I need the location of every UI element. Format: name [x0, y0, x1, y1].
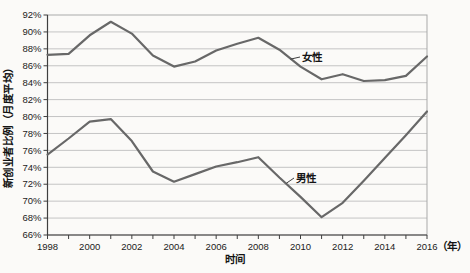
y-tick-labels: 66%68%70%72%74%76%78%80%82%84%86%88%90%9… [22, 9, 42, 240]
series-label-female: 女性 [302, 51, 323, 63]
y-tick-label: 76% [22, 145, 42, 156]
series-lines [48, 22, 428, 217]
x-axis-title: 时间 [225, 253, 245, 265]
y-tick-label: 78% [22, 128, 42, 139]
y-tick-label: 86% [22, 60, 42, 71]
y-tick-label: 80% [22, 111, 42, 122]
x-tick-label: 1998 [37, 241, 58, 252]
female-label-leader [290, 57, 300, 59]
x-tick-label: 2016 [416, 241, 437, 252]
x-tick-label: 2000 [79, 241, 100, 252]
chart-canvas: 66%68%70%72%74%76%78%80%82%84%86%88%90%9… [0, 0, 470, 273]
x-tick-label: 2008 [248, 241, 269, 252]
x-tick-label: 2006 [206, 241, 227, 252]
x-tick-label: 2010 [290, 241, 311, 252]
y-axis-title: 新创业者比例（月度平均） [2, 62, 14, 188]
line-chart-figure: 66%68%70%72%74%76%78%80%82%84%86%88%90%9… [0, 0, 470, 273]
x-tick-label: 2012 [332, 241, 353, 252]
female-series-line [48, 22, 428, 81]
x-tick-label: 2004 [163, 241, 184, 252]
plot-border [48, 15, 428, 235]
y-tick-label: 84% [22, 77, 42, 88]
y-tick-label: 72% [22, 178, 42, 189]
y-tick-label: 66% [22, 229, 42, 240]
y-tick-label: 74% [22, 162, 42, 173]
male-label-leader [286, 178, 294, 183]
y-tick-label: 82% [22, 94, 42, 105]
x-axis-unit-label: （年） [437, 240, 467, 252]
y-tick-label: 88% [22, 43, 42, 54]
plot-border-box [48, 15, 428, 235]
series-label-male: 男性 [296, 172, 317, 184]
annotation-leader-lines [286, 57, 300, 183]
y-tick-label: 90% [22, 26, 42, 37]
gridlines [48, 32, 428, 218]
y-tick-label: 92% [22, 9, 42, 20]
x-tick-label: 2002 [121, 241, 142, 252]
y-tick-label: 68% [22, 212, 42, 223]
x-tick-labels: 1998200020022004200620082010201220142016 [37, 241, 438, 252]
y-tick-label: 70% [22, 195, 42, 206]
x-tick-label: 2014 [374, 241, 395, 252]
